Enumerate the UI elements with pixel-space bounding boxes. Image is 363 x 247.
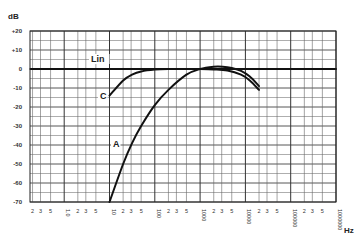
y-tick-label: -60 bbox=[13, 180, 22, 186]
y-axis-unit: dB bbox=[8, 12, 19, 21]
y-tick-label: -50 bbox=[13, 161, 22, 167]
curve-c bbox=[110, 69, 260, 96]
x-tick-label: 1000000 bbox=[337, 209, 343, 230]
x-tick-label: 2 bbox=[303, 208, 306, 214]
x-tick-label: 2 bbox=[258, 208, 261, 214]
x-tick-label: 3 bbox=[175, 208, 178, 214]
x-tick-label: 100 bbox=[156, 209, 162, 218]
y-tick-label: -70 bbox=[13, 199, 22, 205]
y-tick-label: +10 bbox=[12, 47, 23, 53]
x-tick-label: 5 bbox=[230, 208, 233, 214]
y-tick-label: -20 bbox=[13, 104, 22, 110]
x-tick-label: 5 bbox=[321, 208, 324, 214]
y-tick-label: -10 bbox=[13, 85, 22, 91]
y-tick-label: +20 bbox=[12, 28, 23, 34]
curves bbox=[30, 66, 336, 202]
x-tick-label: 10000 bbox=[246, 209, 252, 224]
x-tick-label: 5 bbox=[276, 208, 279, 214]
x-tick-label: 3 bbox=[265, 208, 268, 214]
x-tick-label: 2 bbox=[31, 208, 34, 214]
y-tick-label: -30 bbox=[13, 123, 22, 129]
y-axis-labels: +20+100-10-20-30-40-50-60-70 bbox=[12, 28, 23, 205]
x-tick-label: 5 bbox=[185, 208, 188, 214]
x-axis-unit: Hz bbox=[344, 226, 354, 235]
x-tick-label: 1000 bbox=[201, 209, 207, 221]
x-tick-label: 3 bbox=[39, 208, 42, 214]
x-tick-label: 10 bbox=[111, 209, 117, 215]
x-tick-label: 3 bbox=[84, 208, 87, 214]
grid bbox=[30, 31, 336, 202]
x-tick-label: 2 bbox=[212, 208, 215, 214]
x-tick-label: 5 bbox=[140, 208, 143, 214]
x-tick-label: 3 bbox=[311, 208, 314, 214]
x-tick-label: 5 bbox=[94, 208, 97, 214]
curve-label-c: C bbox=[100, 91, 107, 101]
x-tick-label: 2 bbox=[122, 208, 125, 214]
x-tick-label: 3 bbox=[130, 208, 133, 214]
x-tick-label: 5 bbox=[49, 208, 52, 214]
curve-a bbox=[110, 66, 260, 202]
y-tick-label: -40 bbox=[13, 142, 22, 148]
x-axis-labels: 2351.02351023510023510002351000023510000… bbox=[31, 208, 343, 230]
curve-label-a: A bbox=[113, 139, 120, 149]
x-tick-label: 100000 bbox=[292, 209, 298, 227]
x-tick-label: 3 bbox=[220, 208, 223, 214]
x-tick-label: 2 bbox=[167, 208, 170, 214]
curve-label-lin: Lin bbox=[91, 54, 105, 64]
x-tick-label: 2 bbox=[76, 208, 79, 214]
y-tick-label: 0 bbox=[19, 66, 23, 72]
x-tick-label: 1.0 bbox=[65, 209, 71, 217]
weighting-chart: +20+100-10-20-30-40-50-60-70 2351.023510… bbox=[0, 0, 363, 247]
